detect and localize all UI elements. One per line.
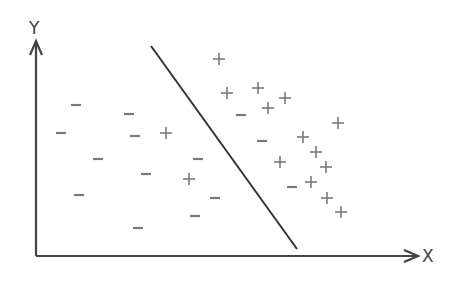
plus-marker-icon <box>305 176 317 188</box>
y-axis-label: Y <box>29 20 39 37</box>
plus-marker-icon <box>160 127 172 139</box>
plus-marker-icon <box>321 192 333 204</box>
plus-marker-icon <box>320 161 332 173</box>
plus-marker-icon <box>183 173 195 185</box>
plus-marker-icon <box>262 102 274 114</box>
plus-marker-icon <box>335 206 347 218</box>
plus-marker-icon <box>221 87 233 99</box>
plus-marker-icon <box>279 92 291 104</box>
scatter-plot <box>0 0 458 281</box>
plus-marker-icon <box>274 156 286 168</box>
plus-marker-icon <box>213 53 225 65</box>
x-axis-label: X <box>422 248 434 265</box>
diagram-canvas: Y X <box>0 0 458 281</box>
plus-marker-icon <box>297 131 309 143</box>
data-points <box>56 53 347 228</box>
plus-marker-icon <box>332 117 344 129</box>
decision-boundary-line <box>151 46 297 249</box>
axes <box>30 41 418 262</box>
plus-marker-icon <box>310 146 322 158</box>
plus-marker-icon <box>252 82 264 94</box>
